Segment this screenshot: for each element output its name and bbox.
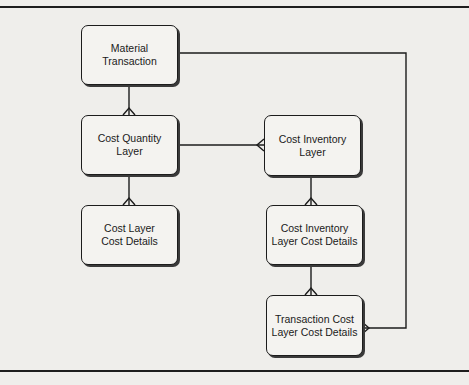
entity-label: Cost Layer Cost Details bbox=[101, 222, 158, 248]
entity-cost-quantity-layer[interactable]: Cost Quantity Layer bbox=[81, 115, 178, 175]
relationship-lines bbox=[0, 0, 469, 385]
entity-label: Transaction Cost Layer Cost Details bbox=[272, 313, 358, 339]
entity-material-transaction[interactable]: Material Transaction bbox=[81, 25, 178, 85]
entity-transaction-cost-layer-cost-details[interactable]: Transaction Cost Layer Cost Details bbox=[266, 295, 363, 356]
entity-label: Material Transaction bbox=[102, 42, 156, 68]
rel-mt-tclcd bbox=[178, 53, 406, 328]
entity-cost-inventory-layer[interactable]: Cost Inventory Layer bbox=[264, 115, 361, 176]
entity-label: Cost Quantity Layer bbox=[98, 132, 162, 158]
entity-cost-inventory-layer-cost-details[interactable]: Cost Inventory Layer Cost Details bbox=[266, 205, 363, 265]
entity-label: Cost Inventory Layer Cost Details bbox=[272, 222, 358, 248]
entity-cost-layer-cost-details[interactable]: Cost Layer Cost Details bbox=[81, 205, 178, 265]
entity-label: Cost Inventory Layer bbox=[279, 133, 347, 159]
